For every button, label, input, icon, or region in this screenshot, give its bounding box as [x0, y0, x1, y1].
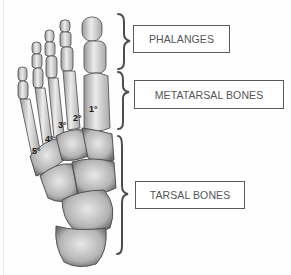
bracket-braces: [117, 14, 130, 254]
metatarsal-number-4: 4°: [45, 134, 54, 144]
brace-metatarsal: [118, 72, 129, 129]
label-phalanges: PHALANGES: [133, 25, 230, 53]
metatarsal-number-3: 3°: [58, 120, 67, 130]
label-metatarsal-bones: METATARSAL BONES: [134, 80, 284, 109]
tarsal-bones: [30, 128, 116, 267]
metatarsal-number-2: 2°: [73, 113, 82, 123]
metatarsal-number-5: 5°: [32, 146, 41, 156]
brace-phalanges: [118, 14, 130, 69]
brace-tarsal: [117, 136, 128, 254]
metatarsal-number-1: 1°: [89, 104, 98, 114]
label-tarsal-bones: TARSAL BONES: [135, 181, 245, 209]
foot-anatomy-diagram: 1° 2° 3° 4° 5° PHALANGES METATARSAL BONE…: [0, 0, 291, 275]
